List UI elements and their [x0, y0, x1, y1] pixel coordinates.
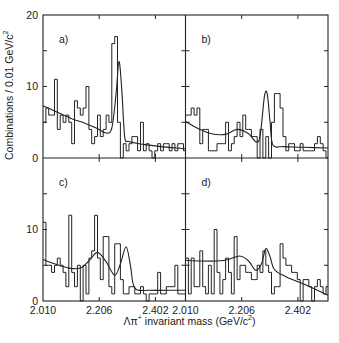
- panel-label: a): [59, 33, 68, 45]
- panel-c: c): [43, 158, 186, 301]
- y-axis-label-text: Combinations / 0.01 GeV/c: [3, 35, 15, 160]
- y-tick-label: 10: [26, 80, 38, 92]
- panel-b: b): [186, 15, 329, 158]
- y-axis-label-sup: 2: [2, 31, 9, 35]
- histogram-figure: a)b)c)d)201001002.0102.2062.4022.0102.20…: [0, 0, 339, 343]
- panel-label: d): [202, 176, 211, 188]
- y-tick-label: 20: [26, 9, 38, 21]
- panel-label: b): [202, 33, 211, 45]
- x-axis-label-end: ): [252, 315, 256, 327]
- fit-curve: [43, 61, 186, 148]
- panel-a: a): [43, 15, 186, 158]
- x-axis-label-text: invariant mass (GeV/c: [142, 315, 248, 327]
- panel-label: c): [59, 176, 68, 188]
- y-tick-label: 10: [26, 223, 38, 235]
- y-axis-label: Combinations / 0.01 GeV/c2: [2, 31, 15, 160]
- histogram: [43, 215, 186, 301]
- x-axis-label: Λπ+ invariant mass (GeV/c2): [0, 314, 339, 327]
- x-axis-label-symbol: Λπ: [124, 315, 138, 327]
- histogram: [186, 94, 329, 158]
- y-tick-label: 0: [32, 152, 38, 164]
- histogram: [186, 230, 329, 302]
- histogram: [43, 37, 186, 159]
- panel-d: d): [186, 158, 329, 301]
